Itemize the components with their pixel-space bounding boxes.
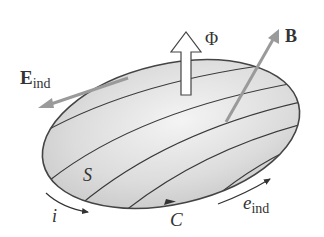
induced-field-label: Eind (20, 67, 51, 91)
surface-label: S (83, 165, 92, 185)
emf-label: eind (243, 192, 269, 216)
current-label: i (52, 206, 57, 226)
faraday-law-diagram: Φ B Eind S C i eind (0, 0, 324, 237)
surface-s (28, 36, 315, 231)
curve-label: C (170, 209, 183, 230)
magnetic-field-label: B (285, 26, 297, 46)
flux-label: Φ (205, 29, 218, 49)
